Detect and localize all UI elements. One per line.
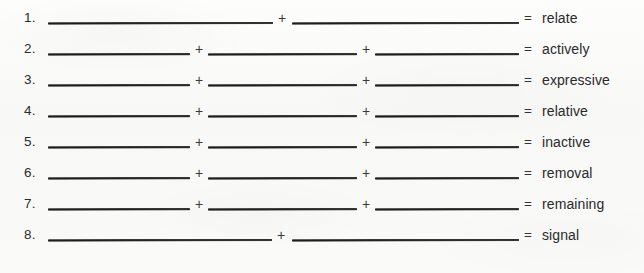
blank-rule-ink (375, 177, 519, 180)
answer-word: removal (542, 163, 593, 183)
answer-blank-line[interactable] (48, 115, 190, 118)
answer-blank-line[interactable] (208, 146, 357, 149)
blank-rule-ink (48, 146, 190, 149)
answer-blank-line[interactable] (375, 115, 519, 118)
equals-sign: = (524, 194, 532, 214)
worksheet-row: 8.+=signal (0, 225, 644, 251)
answer-blank-line[interactable] (375, 146, 519, 149)
answer-blank-line[interactable] (48, 53, 190, 56)
blank-rule-ink (48, 208, 190, 211)
answer-word: expressive (542, 70, 610, 90)
blank-rule-ink (208, 146, 357, 149)
plus-sign: + (359, 194, 373, 214)
blank-rule-ink (48, 177, 190, 180)
plus-sign: + (275, 8, 289, 28)
answer-word: actively (542, 39, 589, 59)
blank-rule-ink (48, 239, 272, 242)
blank-rule-ink (375, 115, 519, 118)
answer-blank-line[interactable] (208, 84, 357, 87)
worksheet-row: 4.++=relative (0, 101, 644, 127)
blank-rule-ink (208, 53, 357, 56)
blank-rule-ink (375, 84, 519, 87)
plus-sign: + (192, 194, 206, 214)
answer-blank-line[interactable] (48, 84, 190, 87)
answer-blank-line[interactable] (48, 239, 272, 242)
plus-sign: + (192, 101, 206, 121)
answer-word: inactive (542, 132, 590, 152)
answer-blank-line[interactable] (48, 208, 190, 211)
answer-blank-line[interactable] (375, 84, 519, 87)
equals-sign: = (524, 101, 532, 121)
answer-blank-line[interactable] (292, 22, 519, 25)
row-number: 8. (24, 225, 46, 245)
plus-sign: + (359, 132, 373, 152)
blank-rule-ink (208, 115, 357, 118)
equals-sign: = (524, 163, 532, 183)
equals-sign: = (524, 39, 532, 59)
worksheet-row: 1.+=relate (0, 8, 644, 34)
equals-sign: = (524, 225, 532, 245)
blank-rule-ink (292, 239, 519, 242)
blank-rule-ink (292, 22, 519, 25)
row-number: 4. (24, 101, 46, 121)
blank-rule-ink (208, 177, 357, 180)
answer-blank-line[interactable] (208, 53, 357, 56)
row-number: 7. (24, 194, 46, 214)
row-number: 6. (24, 163, 46, 183)
worksheet-rows: 1.+=relate2.++=actively3.++=expressive4.… (0, 0, 644, 273)
blank-rule-ink (375, 53, 519, 56)
blank-rule-ink (48, 53, 190, 56)
row-number: 3. (24, 70, 46, 90)
plus-sign: + (192, 163, 206, 183)
worksheet-row: 6.++=removal (0, 163, 644, 189)
plus-sign: + (359, 163, 373, 183)
answer-word: relative (542, 101, 588, 121)
answer-blank-line[interactable] (208, 115, 357, 118)
answer-blank-line[interactable] (48, 177, 190, 180)
plus-sign: + (359, 101, 373, 121)
row-number: 5. (24, 132, 46, 152)
plus-sign: + (192, 39, 206, 59)
plus-sign: + (274, 225, 288, 245)
answer-blank-line[interactable] (48, 146, 190, 149)
answer-blank-line[interactable] (208, 177, 357, 180)
answer-blank-line[interactable] (375, 177, 519, 180)
answer-blank-line[interactable] (48, 22, 273, 25)
worksheet-page: 1.+=relate2.++=actively3.++=expressive4.… (0, 0, 644, 273)
worksheet-row: 3.++=expressive (0, 70, 644, 96)
plus-sign: + (359, 70, 373, 90)
plus-sign: + (192, 70, 206, 90)
blank-rule-ink (208, 208, 357, 211)
blank-rule-ink (375, 208, 519, 211)
answer-blank-line[interactable] (292, 239, 519, 242)
equals-sign: = (524, 8, 532, 28)
blank-rule-ink (48, 22, 273, 25)
row-number: 2. (24, 39, 46, 59)
plus-sign: + (192, 132, 206, 152)
answer-word: remaining (542, 194, 604, 214)
answer-blank-line[interactable] (375, 208, 519, 211)
worksheet-row: 7.++=remaining (0, 194, 644, 220)
equals-sign: = (524, 132, 532, 152)
equals-sign: = (524, 70, 532, 90)
answer-blank-line[interactable] (375, 53, 519, 56)
blank-rule-ink (48, 115, 190, 118)
row-number: 1. (24, 8, 46, 28)
blank-rule-ink (208, 84, 357, 87)
blank-rule-ink (48, 84, 190, 87)
plus-sign: + (359, 39, 373, 59)
answer-blank-line[interactable] (208, 208, 357, 211)
answer-word: relate (542, 8, 578, 28)
blank-rule-ink (375, 146, 519, 149)
worksheet-row: 2.++=actively (0, 39, 644, 65)
worksheet-row: 5.++=inactive (0, 132, 644, 158)
answer-word: signal (542, 225, 579, 245)
